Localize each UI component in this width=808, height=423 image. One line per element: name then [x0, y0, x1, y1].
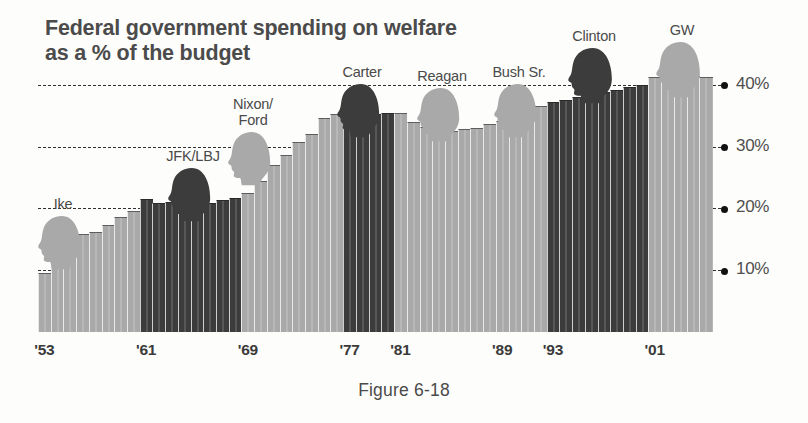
x-axis-tick-label-1981: '81 — [390, 341, 410, 359]
bar-1991 — [521, 111, 534, 332]
president-head-silhouette — [567, 46, 621, 106]
bar-1993 — [547, 102, 560, 332]
president-name-label-line-2: Ford — [233, 112, 273, 128]
gridline-dot-40 — [721, 82, 728, 89]
bar-1957 — [89, 232, 102, 332]
bar-1996 — [585, 95, 598, 332]
president-head-silhouette — [227, 130, 279, 188]
bar-1958 — [102, 225, 115, 332]
bar-1969 — [241, 193, 254, 332]
bar-1976 — [330, 114, 343, 332]
president-name-label: Nixon/Ford — [233, 96, 273, 128]
bar-1982 — [407, 122, 420, 332]
bar-1980 — [381, 113, 394, 332]
president-name-label: Clinton — [572, 28, 616, 44]
x-axis-tick-label-1989: '89 — [492, 341, 512, 359]
bar-2001 — [648, 77, 661, 332]
bar-1979 — [369, 114, 382, 332]
bar-1960 — [127, 211, 140, 332]
bar-1995 — [572, 97, 585, 332]
president-head-silhouette — [493, 82, 545, 140]
y-axis-tick-label-20: 20% — [736, 197, 769, 217]
president-name-label: Ike — [54, 196, 73, 212]
x-axis-tick-label-1953: '53 — [34, 341, 54, 359]
bar-2002 — [661, 81, 674, 332]
y-axis-tick-label-30: 30% — [736, 136, 769, 156]
bar-2000 — [636, 85, 649, 332]
bar-1994 — [559, 100, 572, 332]
bar-2003 — [674, 80, 687, 332]
president-head-silhouette — [655, 40, 709, 100]
bar-1970 — [254, 181, 267, 332]
bar-1997 — [598, 92, 611, 332]
bar-1975 — [318, 118, 331, 332]
president-name-label: GW — [670, 22, 695, 38]
bar-1972 — [280, 155, 293, 332]
president-head-silhouette — [336, 82, 388, 140]
chart-title-line-1: Federal government spending on welfare — [45, 16, 457, 40]
gridline-dot-10 — [721, 268, 728, 275]
president-name-label: JFK/LBJ — [166, 148, 219, 164]
x-axis-tick-label-1969: '69 — [238, 341, 258, 359]
bar-1971 — [267, 165, 280, 332]
president-head-silhouette — [37, 214, 89, 272]
bar-1977 — [343, 116, 356, 332]
bar-2004 — [687, 76, 700, 332]
bar-1978 — [356, 116, 369, 332]
bar-1985 — [445, 131, 458, 332]
bar-1973 — [292, 142, 305, 332]
bar-1961 — [140, 199, 153, 332]
bar-1953 — [38, 273, 51, 332]
gridline-dot-30 — [721, 144, 728, 151]
bar-2005 — [699, 77, 712, 332]
x-axis-tick-label-1977: '77 — [339, 341, 359, 359]
president-head-silhouette — [167, 166, 219, 224]
bar-1962 — [152, 203, 165, 332]
bar-1989 — [496, 121, 509, 332]
figure-6-18: Federal government spending on welfare a… — [0, 0, 808, 423]
president-name-label: Reagan — [417, 68, 467, 84]
y-axis-tick-label-40: 40% — [736, 74, 769, 94]
bar-1983 — [420, 127, 433, 332]
bar-1990 — [509, 118, 522, 332]
president-name-label: Bush Sr. — [492, 64, 545, 80]
x-axis-tick-label-2001: '01 — [645, 341, 665, 359]
x-axis-tick-label-1961: '61 — [136, 341, 156, 359]
bar-1987 — [470, 128, 483, 332]
bar-1998 — [610, 90, 623, 332]
bar-1981 — [394, 113, 407, 332]
y-axis-tick-label-10: 10% — [736, 259, 769, 279]
x-axis-tick-label-1993: '93 — [543, 341, 563, 359]
figure-caption: Figure 6-18 — [0, 380, 808, 401]
president-head-silhouette — [416, 86, 468, 144]
bar-1986 — [458, 129, 471, 332]
bar-1984 — [432, 132, 445, 332]
gridline-dot-20 — [721, 206, 728, 213]
president-name-label: Carter — [342, 64, 381, 80]
bar-1988 — [483, 124, 496, 332]
bar-1959 — [114, 217, 127, 332]
bar-1968 — [229, 198, 242, 332]
bar-1999 — [623, 87, 636, 332]
bar-1974 — [305, 134, 318, 332]
